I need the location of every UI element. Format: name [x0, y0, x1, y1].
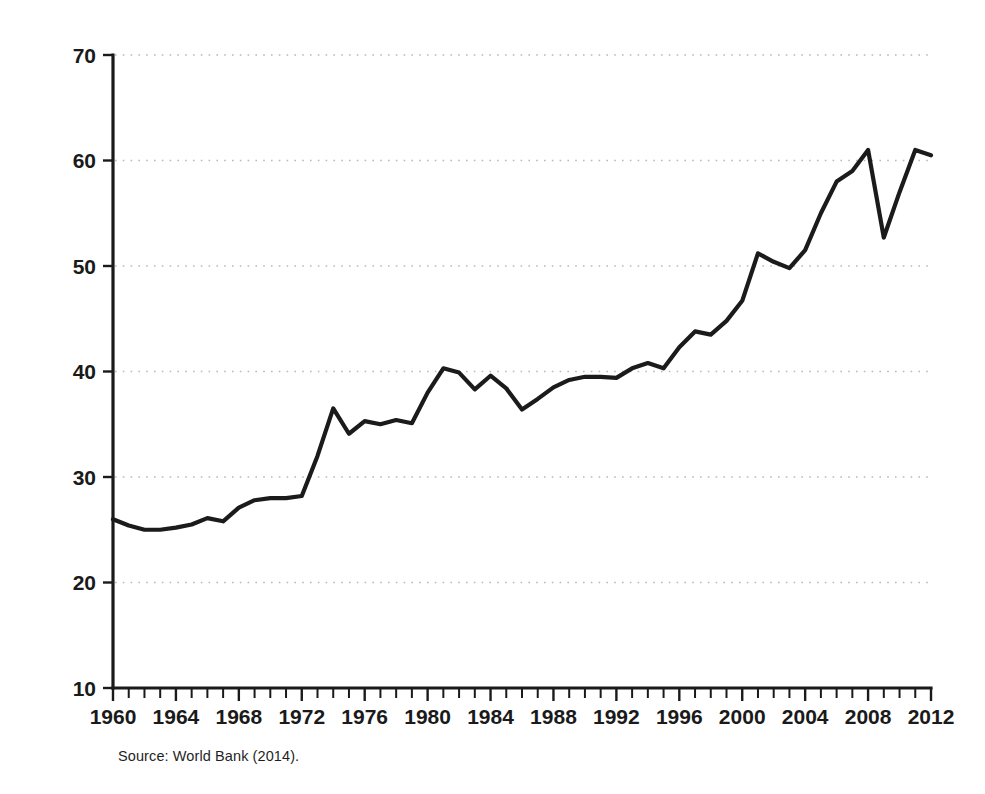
- x-axis-ticks-group: 1960196419681972197619801984198819921996…: [90, 705, 955, 728]
- x-tick-label: 1980: [404, 705, 451, 728]
- x-tick-label: 1976: [341, 705, 388, 728]
- x-tick-label: 1988: [530, 705, 577, 728]
- chart-figure: Percentage of GDP 10203040506070 1960196…: [0, 0, 985, 794]
- x-tick-label: 2012: [908, 705, 955, 728]
- y-tick-label: 60: [73, 149, 96, 172]
- y-tick-label: 70: [73, 44, 96, 67]
- x-tick-label: 1968: [215, 705, 262, 728]
- y-tick-label: 10: [73, 677, 96, 700]
- y-tick-label: 50: [73, 255, 96, 278]
- x-axis-minor-ticks-group: [113, 688, 931, 701]
- source-note: Source: World Bank (2014).: [118, 748, 299, 764]
- y-tick-label: 40: [73, 360, 96, 383]
- x-tick-label: 2008: [845, 705, 892, 728]
- x-tick-label: 1964: [153, 705, 200, 728]
- x-tick-label: 1992: [593, 705, 640, 728]
- x-tick-label: 1984: [467, 705, 514, 728]
- gridlines-group: [115, 55, 931, 583]
- x-tick-label: 1972: [278, 705, 325, 728]
- x-tick-label: 1996: [656, 705, 703, 728]
- y-tick-label: 20: [73, 571, 96, 594]
- x-tick-label: 1960: [90, 705, 137, 728]
- x-tick-label: 2004: [782, 705, 829, 728]
- series-line-trade: [113, 150, 931, 530]
- y-tick-label: 30: [73, 466, 96, 489]
- line-chart-plot: 10203040506070 1960196419681972197619801…: [0, 0, 985, 794]
- y-axis-ticks-group: 10203040506070: [73, 44, 113, 700]
- x-tick-label: 2000: [719, 705, 766, 728]
